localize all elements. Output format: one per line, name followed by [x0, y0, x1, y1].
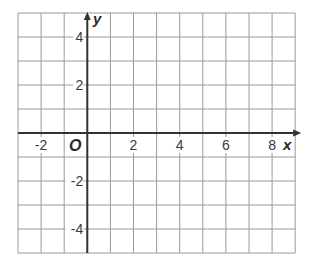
x-tick-label: 2: [130, 137, 138, 153]
axes: [18, 12, 301, 253]
y-tick-label: 2: [76, 77, 84, 93]
coordinate-plane: -2246842-2-4 x y O: [0, 0, 310, 269]
x-tick-label: 4: [176, 137, 184, 153]
y-tick-label: -2: [71, 173, 84, 189]
x-axis-arrow-icon: [293, 130, 301, 137]
x-tick-label: 8: [268, 137, 276, 153]
x-tick-label: -2: [35, 137, 48, 153]
x-axis-label: x: [282, 136, 292, 153]
x-tick-label: 6: [222, 137, 230, 153]
origin-label: O: [69, 137, 82, 154]
y-tick-label: -4: [71, 221, 84, 237]
y-axis-label: y: [92, 10, 102, 27]
y-tick-label: 4: [76, 29, 84, 45]
